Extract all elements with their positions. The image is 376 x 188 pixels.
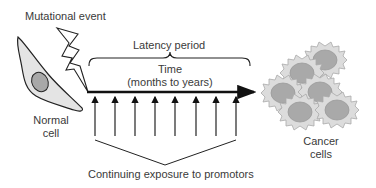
promotor-bracket	[95, 140, 236, 165]
lightning-bolt-icon	[57, 28, 88, 92]
promotors-label: Continuing exposure to promotors	[88, 168, 248, 181]
time-range-label: (months to years)	[120, 76, 220, 89]
promotor-arrows	[95, 97, 236, 136]
mutational-event-label: Mutational event	[25, 10, 106, 23]
cancer-cells-label-line2: cells	[299, 148, 343, 161]
normal-cell-label-line2: cell	[30, 127, 72, 140]
time-label: Time	[120, 63, 220, 76]
cancer-cells-icon	[261, 42, 359, 130]
latency-period-label: Latency period	[133, 39, 205, 52]
cancer-cells-label-line1: Cancer	[299, 135, 343, 148]
normal-cell-label-line1: Normal	[30, 114, 72, 127]
